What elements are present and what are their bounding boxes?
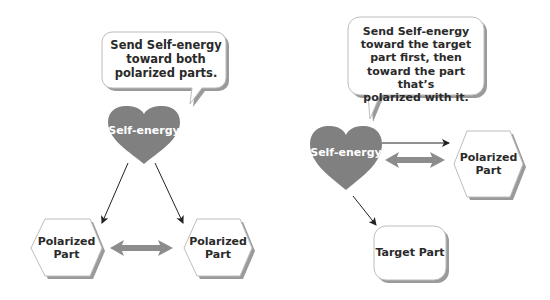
heart-label-right: Self-energy [310,146,382,159]
arrow-to-right-part [155,163,183,223]
part-line: Part [454,164,523,177]
part-line: Polarized [454,151,523,164]
polarized-part-left-label: Polarized Part [31,235,102,261]
bubble-line: toward the target [348,38,484,51]
target-part-label: Target Part [374,246,446,259]
double-arrow-icon [385,152,445,168]
speech-bubble-left-text: Send Self-energy toward both polarized p… [104,39,228,80]
arrow-to-left-part [102,163,128,223]
polarized-part-label: Polarized Part [454,151,523,177]
part-line: Part [31,248,102,261]
part-line: Polarized [184,235,252,248]
speech-bubble-right-text: Send Self-energy toward the target part … [348,25,484,104]
part-line: Part [184,248,252,261]
heart-label-left: Self-energy [108,124,180,137]
bubble-line: toward both [104,53,228,67]
bubble-line: polarized with it. [348,91,484,104]
double-arrow-icon [110,240,173,256]
bubble-line: part first, then [348,51,484,64]
bubble-line: Send Self-energy [104,39,228,53]
diagram-canvas: Send Self-energy toward both polarized p… [0,0,550,300]
bubble-line: Send Self-energy [348,25,484,38]
arrow-to-target-part [353,196,376,225]
bubble-line: toward the part that’s [348,65,484,91]
bubble-line: polarized parts. [104,67,228,81]
polarized-part-right-label: Polarized Part [184,235,252,261]
part-line: Polarized [31,235,102,248]
